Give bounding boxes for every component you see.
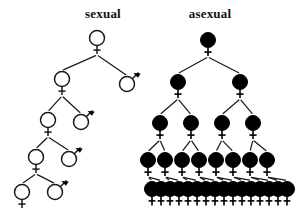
female-cross-mark <box>176 196 183 206</box>
female-cross-mark <box>158 196 165 206</box>
female-cross-mark <box>266 196 273 206</box>
female-symbol <box>215 116 230 140</box>
node-layer <box>15 31 295 209</box>
lineage-edge <box>161 100 177 114</box>
lineage-edge <box>63 56 95 70</box>
diagram-canvas: sexual asexual <box>0 0 300 214</box>
lineage-edge <box>183 141 190 150</box>
female-cross-mark <box>167 196 174 206</box>
lineage-edge <box>241 100 252 113</box>
lineage-edge <box>63 97 80 112</box>
female-symbol <box>226 153 241 177</box>
lineage-edge <box>209 58 238 73</box>
lineage-edge <box>23 175 35 183</box>
panel-title-asexual: asexual <box>189 6 232 21</box>
female-symbol <box>158 153 173 177</box>
female-cross-mark <box>185 196 192 206</box>
male-symbol <box>48 180 69 199</box>
female-symbol <box>15 185 30 209</box>
female-symbol <box>90 31 105 55</box>
lineage-edge <box>223 100 239 114</box>
female-symbol <box>201 33 216 57</box>
female-symbol <box>246 116 261 140</box>
female-cross-mark <box>230 196 237 206</box>
female-symbol <box>243 153 258 177</box>
panel-title-sexual: sexual <box>85 6 121 21</box>
female-symbol <box>55 72 70 96</box>
lineage-edge <box>179 100 190 113</box>
lineage-edge <box>149 141 159 150</box>
lineage-edge <box>223 141 232 150</box>
female-symbol <box>280 182 295 197</box>
female-symbol <box>184 116 199 140</box>
lineage-edge <box>49 138 67 150</box>
lineage-edge <box>49 97 61 110</box>
female-cross-mark <box>275 196 282 206</box>
male-symbol <box>74 110 95 129</box>
female-cross-mark <box>248 196 255 206</box>
female-symbol <box>29 150 44 174</box>
female-cross-mark <box>257 196 264 206</box>
female-symbol <box>153 116 168 140</box>
lineage-edge <box>37 175 53 183</box>
female-symbol <box>41 113 56 137</box>
lineage-edge <box>254 141 266 151</box>
male-symbol <box>62 147 83 166</box>
female-cross-mark <box>149 196 156 206</box>
female-cross-mark <box>284 196 291 206</box>
female-symbol <box>175 153 190 177</box>
lineage-edge <box>37 138 47 147</box>
female-cross-mark <box>212 196 219 206</box>
lineage-edge <box>250 141 252 150</box>
female-cross-mark <box>239 196 246 206</box>
female-symbol <box>141 153 156 177</box>
female-symbol <box>233 75 248 99</box>
female-symbol <box>192 153 207 177</box>
lineage-edge <box>179 58 206 73</box>
female-cross-mark <box>194 196 201 206</box>
female-symbol <box>260 153 275 177</box>
female-cross-mark <box>221 196 228 206</box>
lineage-edge <box>161 141 165 150</box>
female-symbol <box>171 75 186 99</box>
lineage-edge <box>217 141 222 150</box>
female-cross-mark <box>203 196 210 206</box>
reproduction-tree-svg: sexual asexual <box>0 0 300 214</box>
lineage-edge <box>192 141 198 150</box>
lineage-edge <box>98 56 126 75</box>
female-symbol <box>209 153 224 177</box>
male-symbol <box>120 72 141 91</box>
